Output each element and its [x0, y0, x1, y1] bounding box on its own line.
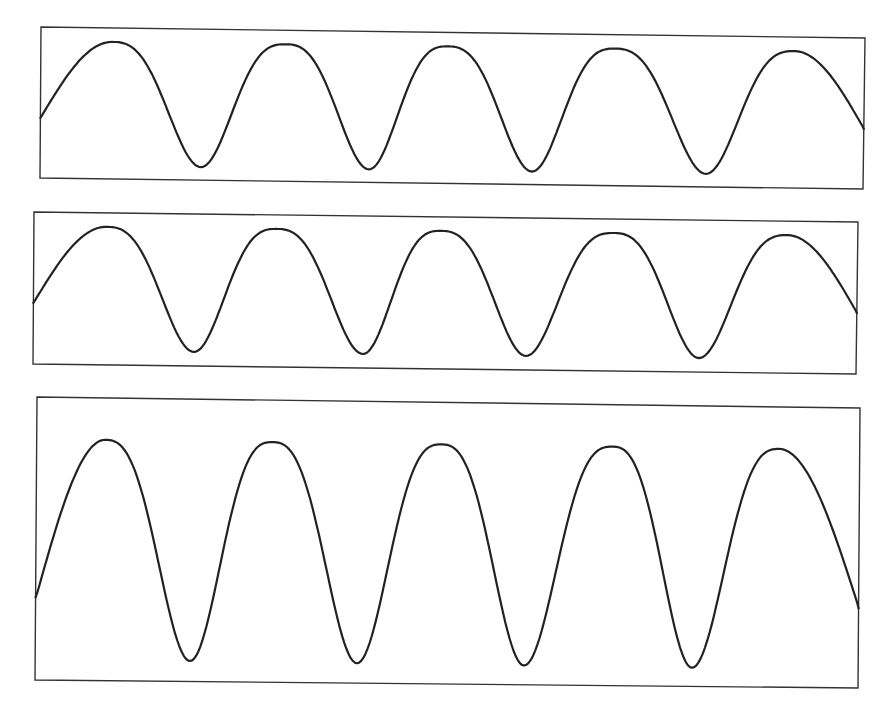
panel-3-waveform — [36, 440, 859, 668]
panel-3-frame — [35, 397, 860, 688]
panel-2-frame — [33, 212, 858, 374]
panel-2-waveform — [33, 227, 856, 358]
waveform-figure — [0, 0, 896, 720]
panel-1 — [40, 27, 865, 189]
panel-1-waveform — [40, 42, 863, 174]
panel-3 — [35, 397, 860, 688]
panel-2 — [33, 212, 858, 374]
panel-1-frame — [40, 27, 865, 189]
